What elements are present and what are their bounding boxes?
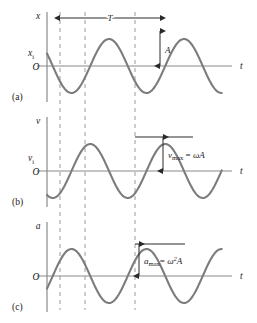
initial-displacement-label: xi <box>27 48 34 59</box>
simple-harmonic-motion-figure: x O t (a) xi T A v O t (b) vi vmax = ωA <box>0 0 257 323</box>
origin-label: O <box>33 62 40 72</box>
amax-label: amax= ω2A <box>144 255 183 268</box>
panel-velocity: v O t (b) vi vmax = ωA <box>12 116 243 208</box>
axis-label-t: t <box>240 271 243 281</box>
axis-label-x: x <box>35 11 41 21</box>
panel-letter-a: (a) <box>12 92 23 103</box>
axis-label-a: a <box>36 221 41 231</box>
axis-label-t: t <box>240 61 243 71</box>
origin-label: O <box>33 167 40 177</box>
panel-letter-b: (b) <box>12 197 23 208</box>
origin-label: O <box>33 272 40 282</box>
initial-velocity-label: vi <box>28 153 34 164</box>
panel-displacement: x O t (a) xi T A <box>12 11 243 103</box>
figure-canvas: x O t (a) xi T A v O t (b) vi vmax = ωA <box>0 0 257 323</box>
panel-acceleration: a O t (c) amax= ω2A <box>12 221 243 313</box>
panel-letter-c: (c) <box>12 302 23 313</box>
axis-label-t: t <box>240 166 243 176</box>
axis-label-v: v <box>36 116 41 126</box>
amplitude-label: A <box>164 45 171 55</box>
